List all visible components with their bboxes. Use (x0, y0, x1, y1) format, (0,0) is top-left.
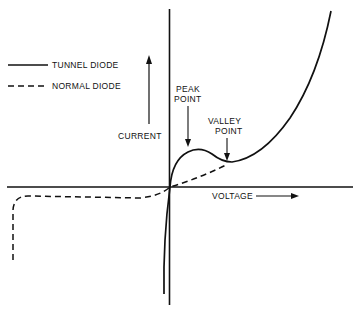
valley-point-label-line2: POINT (215, 126, 242, 136)
valley-point-label-line1: VALLEY (208, 116, 241, 126)
current-arrow-head (146, 55, 152, 64)
legend-tunnel-diode: TUNNEL DIODE (52, 60, 119, 70)
tunnel-diode-iv-diagram: TUNNEL DIODE NORMAL DIODE CURRENT VOLTAG… (0, 0, 357, 310)
peak-point-label-line2: POINT (174, 94, 201, 104)
normal-diode-curve (13, 164, 228, 260)
voltage-label: VOLTAGE (212, 191, 253, 201)
peak-point-label-line1: PEAK (176, 84, 200, 94)
diagram-canvas: TUNNEL DIODE NORMAL DIODE CURRENT VOLTAG… (0, 0, 357, 310)
valley-point-arrow-head (224, 153, 230, 161)
voltage-arrow-head (291, 193, 299, 199)
current-label: CURRENT (118, 131, 162, 141)
tunnel-diode-curve (164, 11, 331, 294)
peak-point-arrow-head (185, 139, 191, 147)
legend-normal-diode: NORMAL DIODE (52, 81, 121, 91)
